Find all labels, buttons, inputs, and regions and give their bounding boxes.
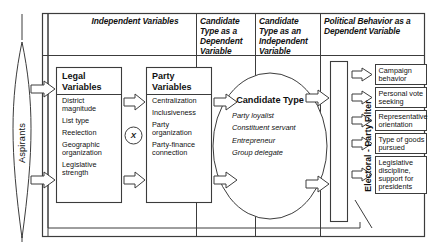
list-item: Legislative strength [56,161,122,177]
header-candidate-type-independent: Candidate Type as an Independent Variabl… [259,16,319,56]
party-variables-list: Centralization Inclusiveness Party organ… [146,97,212,161]
party-variables-title: Party Variables [146,67,212,95]
header-candidate-type-dependent: Candidate Type as a Dependent Variable [200,16,255,56]
legal-variables-title: Legal Variables [56,67,122,95]
list-item: List type [56,117,122,125]
list-item: Reelection [56,129,122,137]
legal-variables-box: Legal Variables District magnitude List … [56,67,122,203]
list-item: Party loyalist [232,112,327,120]
list-item: District magnitude [56,97,122,113]
outcome-box: Representative orientation [375,110,427,131]
list-item: Constituent servant [232,124,327,132]
list-item: Party-finance connection [146,141,212,157]
electoral-party-filter-label: Electoral - Party Filter [363,66,373,226]
header-political-behavior: Political Behavior as a Dependent Variab… [324,16,422,36]
outcome-box: Type of goods pursued [375,133,427,154]
outcome-box: Campaign behavior [375,64,427,85]
list-item: Inclusiveness [146,109,212,117]
candidate-type-title: Candidate Type [215,95,325,105]
list-item: Centralization [146,97,212,105]
aspirants-label: Aspirants [17,108,27,178]
list-item: Geographic organization [56,141,122,157]
list-item: Party organization [146,121,212,137]
candidate-type-list: Party loyalist Constituent servant Entre… [232,112,327,162]
party-variables-box: Party Variables Centralization Inclusive… [146,67,212,203]
diagram-canvas: .ln{fill:none;stroke:#3c3c3c;stroke-widt… [0,0,446,250]
list-item: Entrepreneur [232,137,327,145]
legal-variables-list: District magnitude List type Reelection … [56,97,122,181]
list-item: Group delegate [232,149,327,157]
header-independent-variables: Independent Variables [62,16,208,26]
outcome-box: Legislative discipline, support for pres… [375,156,427,194]
outcome-box: Personal vote seeking [375,87,427,108]
x-symbol-label: X [131,131,136,140]
interaction-x-symbol: X [124,126,143,145]
